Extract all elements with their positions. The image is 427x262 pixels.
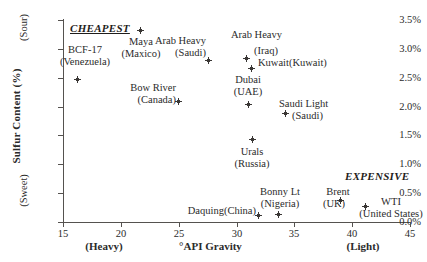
marker-icon xyxy=(245,101,252,108)
marker-icon xyxy=(137,27,144,34)
x-axis-light-label: (Light) xyxy=(323,240,403,252)
y-axis-sour-label: (Sour) xyxy=(18,0,29,58)
point-label-saudilight-region: (Saudi) xyxy=(292,110,323,122)
y-tick xyxy=(58,135,63,136)
x-tick-label: 25 xyxy=(159,228,199,239)
marker-icon xyxy=(282,110,289,117)
data-point-arab-heavy-iraq xyxy=(243,55,250,62)
point-label-kuwait: Kuwait(Kuwait) xyxy=(258,57,327,69)
marker-icon xyxy=(249,136,256,143)
x-tick-label: 30 xyxy=(217,228,257,239)
x-tick xyxy=(63,222,64,227)
data-point-saudi-light xyxy=(282,110,289,117)
point-label-wti-name: WTI xyxy=(368,196,414,208)
marker-icon xyxy=(243,55,250,62)
data-point-dubai xyxy=(245,101,252,108)
marker-icon xyxy=(74,76,81,83)
y-axis-title: Sulfur Content (%) xyxy=(10,56,22,176)
x-axis-heavy-label: (Heavy) xyxy=(64,240,144,252)
x-tick-label: 20 xyxy=(101,228,141,239)
point-label-arab-iraq-name: Arab Heavy xyxy=(231,29,282,41)
y-tick-label: 2.0% xyxy=(365,102,421,113)
x-tick xyxy=(410,222,411,227)
point-label-bowriver-region: (Canada) xyxy=(118,94,176,106)
point-label-arab-iraq-region: (Iraq) xyxy=(254,45,278,57)
x-tick xyxy=(121,222,122,227)
y-tick-label: 3.0% xyxy=(365,44,421,55)
y-tick xyxy=(58,193,63,194)
point-label-bonny-region: (Nigeria) xyxy=(246,198,314,210)
x-tick xyxy=(352,222,353,227)
y-tick-label: 3.5% xyxy=(365,15,421,26)
point-label-bonny-name: Bonny Lt xyxy=(248,186,312,198)
x-tick-label: 45 xyxy=(390,228,427,239)
point-label-urals-region: (Russia) xyxy=(222,158,282,170)
point-label-urals-name: Urals xyxy=(222,146,282,158)
x-tick-label: 35 xyxy=(274,228,314,239)
data-point-bcf17 xyxy=(74,76,81,83)
data-point-urals xyxy=(249,136,256,143)
point-label-dubai-region: (UAE) xyxy=(218,86,278,98)
data-point-maya xyxy=(137,27,144,34)
x-tick-label: 15 xyxy=(43,228,83,239)
y-tick xyxy=(58,78,63,79)
point-label-bowriver-name: Bow River xyxy=(110,82,176,94)
marker-icon xyxy=(275,211,282,218)
x-tick xyxy=(294,222,295,227)
annotation-cheapest: CHEAPEST xyxy=(70,22,130,34)
y-tick xyxy=(58,107,63,108)
point-label-saudilight-name: Saudi Light xyxy=(279,98,328,110)
point-label-daquing: Daquing(China) xyxy=(178,205,256,217)
point-label-dubai-name: Dubai xyxy=(218,74,278,86)
point-label-arab-saudi-name: Arab Heavy xyxy=(140,35,206,47)
point-label-arab-saudi-region: (Saudi) xyxy=(150,47,206,59)
point-label-wti-region: (United States) xyxy=(345,208,427,220)
marker-icon xyxy=(248,65,255,72)
y-axis-sweet-label: (Sweet) xyxy=(18,161,29,221)
x-tick xyxy=(179,222,180,227)
y-tick-label: 1.0% xyxy=(365,159,421,170)
x-tick-label: 40 xyxy=(332,228,372,239)
data-point-bonny-lt xyxy=(275,211,282,218)
x-tick xyxy=(237,222,238,227)
y-tick-label: 1.5% xyxy=(365,130,421,141)
y-tick-label: 2.5% xyxy=(365,73,421,84)
annotation-expensive: EXPENSIVE xyxy=(345,170,409,182)
point-label-brent-name: Brent xyxy=(310,186,366,198)
y-tick xyxy=(58,20,63,21)
y-tick xyxy=(58,164,63,165)
data-point-kuwait xyxy=(248,65,255,72)
